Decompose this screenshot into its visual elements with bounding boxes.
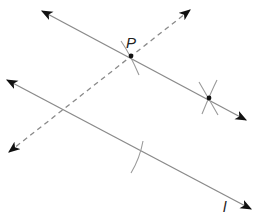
parallel-line-through-p (42, 11, 246, 120)
transversal-dashed-line (9, 10, 190, 152)
point-q (207, 96, 212, 101)
point-p (129, 54, 134, 59)
line-l (7, 80, 251, 209)
label-p: P (126, 34, 136, 51)
geometry-diagram: P l (0, 0, 257, 216)
label-l: l (223, 198, 227, 215)
